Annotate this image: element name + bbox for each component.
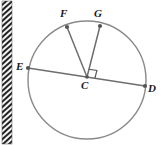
page-edge-hatch-band-icon xyxy=(2,1,12,144)
label-point-F: F xyxy=(60,8,67,19)
point-D-dot xyxy=(143,84,147,88)
label-point-D: D xyxy=(148,83,156,94)
label-point-G: G xyxy=(94,8,102,19)
point-G-dot xyxy=(98,24,102,28)
point-F-dot xyxy=(65,25,69,29)
label-point-E: E xyxy=(16,61,23,72)
geometry-canvas xyxy=(0,0,164,145)
label-point-C: C xyxy=(81,80,88,91)
circle-geometry-figure: E D F G C xyxy=(0,0,164,145)
segment-CF-radius xyxy=(67,27,87,77)
point-E-dot xyxy=(26,66,30,70)
